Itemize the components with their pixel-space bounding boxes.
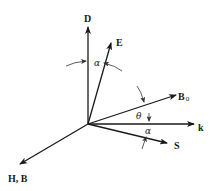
label-k: k xyxy=(198,122,204,133)
label-s: S xyxy=(174,140,180,151)
vector-h-b xyxy=(20,124,88,164)
angle-alpha-bottom: α xyxy=(145,126,151,136)
wave-vector-diagram: D E B0 k S H, B α θ α xyxy=(0,0,216,191)
angle-arrow-left-icon xyxy=(66,61,86,66)
angle-arrow-s-icon xyxy=(142,137,146,149)
label-e: E xyxy=(116,37,123,48)
angle-theta: θ xyxy=(136,111,142,121)
vector-e xyxy=(88,43,111,124)
label-h-b: H, B xyxy=(8,173,28,184)
angle-arrow-b0-icon xyxy=(137,86,144,102)
label-d: D xyxy=(84,13,91,24)
angle-arrow-right-icon xyxy=(104,63,122,71)
label-b0: B0 xyxy=(178,91,190,103)
vector-b0 xyxy=(88,95,176,124)
angle-alpha-top: α xyxy=(94,58,100,68)
vector-s xyxy=(88,124,167,143)
